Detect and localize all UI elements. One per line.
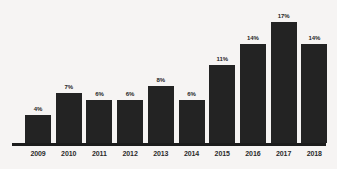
- x-axis-tick-labels: 2009201020112012201320142015201620172018: [14, 150, 324, 164]
- bar-value-label: 14%: [308, 35, 320, 41]
- bar-column: 6%: [117, 8, 143, 143]
- bar: [25, 115, 51, 143]
- tick-label-2010: 2010: [52, 150, 86, 158]
- bar: [117, 100, 143, 143]
- bar-value-label: 6%: [126, 91, 134, 97]
- bar-value-label: 17%: [278, 13, 290, 19]
- bar: [240, 44, 266, 143]
- bar: [301, 44, 327, 143]
- bar-value-label: 7%: [64, 84, 72, 90]
- bar-column: 7%: [56, 8, 82, 143]
- bar-group-2018: 14%: [301, 8, 327, 143]
- bar-value-label: 8%: [157, 77, 165, 83]
- bar-group-2011: 6%: [86, 8, 112, 143]
- tick-label-2017: 2017: [267, 150, 301, 158]
- bar-group-2013: 8%: [148, 8, 174, 143]
- bar-group-2016: 14%: [240, 8, 266, 143]
- bar-column: 6%: [179, 8, 205, 143]
- bar-value-label: 11%: [216, 56, 227, 62]
- bar-chart: 4%7%6%6%8%6%11%14%17%14% 200920102011201…: [0, 0, 337, 169]
- x-axis-line: [12, 143, 326, 146]
- tick-label-2011: 2011: [82, 150, 116, 158]
- bar-group-2014: 6%: [179, 8, 205, 143]
- tick-label-2009: 2009: [21, 150, 55, 158]
- bar: [209, 65, 235, 143]
- plot-area: 4%7%6%6%8%6%11%14%17%14%: [14, 8, 324, 143]
- bar-column: 6%: [86, 8, 112, 143]
- tick-label-2015: 2015: [205, 150, 239, 158]
- bar: [179, 100, 205, 143]
- bar-column: 8%: [148, 8, 174, 143]
- bar: [271, 22, 297, 143]
- bar-group-2017: 17%: [271, 8, 297, 143]
- tick-label-2012: 2012: [113, 150, 147, 158]
- bar-value-label: 14%: [247, 35, 259, 41]
- tick-label-2018: 2018: [297, 150, 331, 158]
- tick-label-2016: 2016: [236, 150, 270, 158]
- bar-column: 11%: [209, 8, 235, 143]
- bar-group-2010: 7%: [56, 8, 82, 143]
- bar-value-label: 6%: [187, 91, 195, 97]
- bar: [148, 86, 174, 143]
- bar-column: 14%: [301, 8, 327, 143]
- bar: [86, 100, 112, 143]
- bar: [56, 93, 82, 143]
- bar-value-label: 4%: [34, 106, 42, 112]
- bar-group-2015: 11%: [209, 8, 235, 143]
- tick-label-2013: 2013: [144, 150, 178, 158]
- bar-group-2012: 6%: [117, 8, 143, 143]
- bar-column: 4%: [25, 8, 51, 143]
- bar-column: 14%: [240, 8, 266, 143]
- tick-label-2014: 2014: [175, 150, 209, 158]
- bar-column: 17%: [271, 8, 297, 143]
- bar-group-2009: 4%: [25, 8, 51, 143]
- bar-value-label: 6%: [95, 91, 103, 97]
